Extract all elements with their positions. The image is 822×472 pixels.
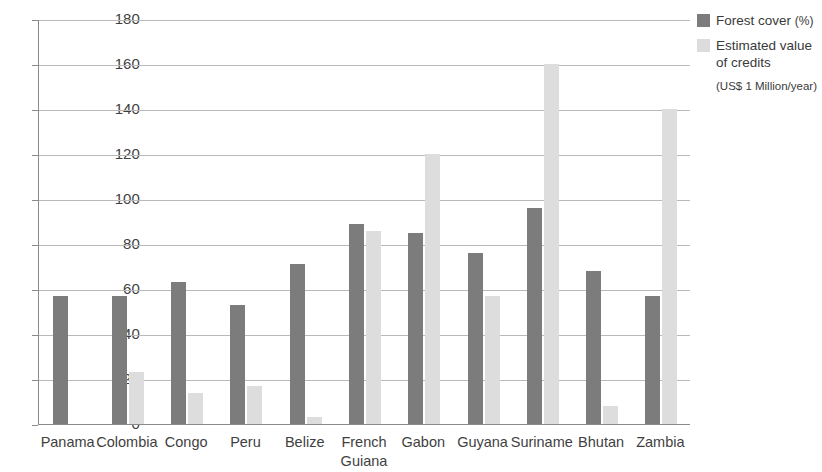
legend-swatch-forest-cover [697,14,710,27]
legend-item-credit-value: Estimated valueof credits [697,37,822,71]
gridline-140 [39,110,690,111]
bar-zambia-series-1 [645,296,660,424]
bar-gabon-series-2 [425,154,440,424]
bar-gabon-series-1 [408,233,423,424]
bar-bhutan-series-2 [603,406,618,424]
legend: Forest cover (%) Estimated valueof credi… [697,12,822,94]
legend-label-credit-value-line2: of credits [716,55,771,70]
gridline-80 [39,245,690,246]
gridline-120 [39,155,690,156]
legend-label-forest-cover-unit: (%) [795,14,814,28]
legend-label-forest-cover: Forest cover (%) [716,12,813,30]
y-tick-mark-0 [32,425,38,426]
bar-french-guiana-series-1 [349,224,364,424]
bar-peru-series-1 [230,305,245,424]
bar-congo-series-2 [188,393,203,425]
legend-label-credit-value-line1: Estimated value [716,38,812,53]
bar-belize-series-2 [307,417,322,424]
bar-french-guiana-series-2 [366,231,381,425]
bar-panama-series-1 [53,296,68,424]
bar-zambia-series-2 [662,109,677,424]
legend-swatch-credit-value [697,39,710,52]
gridline-180 [39,20,690,21]
bar-colombia-series-1 [112,296,127,424]
plot-area [38,20,690,425]
legend-item-forest-cover: Forest cover (%) [697,12,822,30]
bar-suriname-series-1 [527,208,542,424]
bar-chart: 020406080100120140160180 PanamaColombiaC… [0,0,822,472]
bar-bhutan-series-1 [586,271,601,424]
bar-guyana-series-2 [485,296,500,424]
legend-label-forest-cover-text: Forest cover [716,13,791,28]
legend-note-credit-value: (US$ 1 Million/year) [716,78,822,94]
bar-belize-series-1 [290,264,305,424]
x-tick-label-zambia: Zambia [625,433,696,452]
bar-colombia-series-2 [129,372,144,424]
bar-peru-series-2 [247,386,262,424]
bar-suriname-series-2 [544,64,559,424]
bar-congo-series-1 [171,282,186,424]
bar-guyana-series-1 [468,253,483,424]
gridline-160 [39,65,690,66]
gridline-100 [39,200,690,201]
legend-label-credit-value: Estimated valueof credits [716,37,812,71]
